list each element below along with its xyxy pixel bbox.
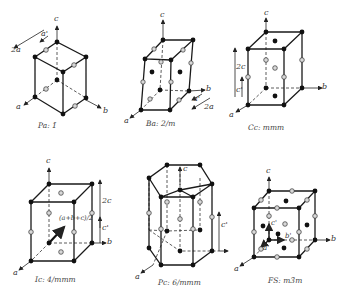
- annotation-c-prime: c': [102, 223, 109, 232]
- axis-a-label: a: [229, 110, 234, 119]
- axis-c-label: c: [54, 14, 58, 23]
- panel-orthorhombic: [235, 18, 322, 112]
- annotation-c-prime: c': [271, 219, 277, 227]
- panel-hexagonal: [141, 163, 228, 273]
- caption-hexagonal: Pc: 6/mmm: [158, 278, 201, 287]
- axis-c-label: c: [160, 10, 164, 19]
- annotation-body-center: (a+b+c)/2: [59, 214, 93, 222]
- annotation-2c: 2c: [102, 196, 112, 205]
- lattice-diagrams: [0, 0, 348, 298]
- panel-triclinic: [14, 26, 101, 116]
- axis-a-label: a: [124, 116, 129, 125]
- panel-cubic: [240, 177, 330, 266]
- axis-b-label: b: [331, 234, 336, 243]
- annotation-2a: 2a: [11, 45, 21, 54]
- annotation-c-prime: c': [221, 220, 228, 229]
- caption-monoclinic: Ba: 2/m: [146, 119, 175, 128]
- panel-monoclinic: [130, 20, 210, 118]
- axis-a-label: a: [135, 272, 140, 281]
- caption-tetragonal: Ic: 4/mmm: [35, 275, 76, 284]
- axis-b-label: b: [322, 82, 327, 91]
- axis-b-label: b: [107, 237, 112, 246]
- annotation-c-prime: c': [236, 85, 243, 94]
- annotation-a-prime: a': [41, 29, 48, 38]
- caption-cubic: FS: m3̄m: [268, 276, 302, 285]
- annotation-2a: 2a: [204, 102, 214, 111]
- annotation-2c: 2c: [236, 62, 246, 71]
- caption-triclinic: Pa: 1̄: [38, 121, 57, 130]
- axis-b-label: b: [206, 84, 211, 93]
- annotation-a-prime: a': [263, 244, 269, 252]
- annotation-a-prime: a': [193, 94, 200, 103]
- axis-a-label: a: [234, 264, 239, 273]
- axis-a-label: a: [16, 102, 21, 111]
- axis-a-label: a: [13, 268, 18, 277]
- axis-b-label: b: [103, 106, 108, 115]
- axis-c-label: c: [264, 8, 268, 17]
- axis-c-label: c: [183, 164, 187, 173]
- caption-orthorhombic: Cc: mmm: [248, 123, 284, 132]
- annotation-b-prime: b': [285, 232, 291, 240]
- axis-c-label: c: [266, 166, 270, 175]
- axis-c-label: c: [46, 156, 50, 165]
